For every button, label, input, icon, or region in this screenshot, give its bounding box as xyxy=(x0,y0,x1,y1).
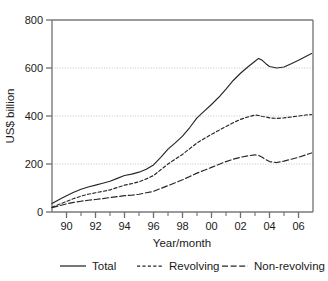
series-line-revolving xyxy=(52,115,312,208)
x-tick-label-00: 00 xyxy=(205,220,217,232)
x-axis-tick-labels: 90 92 94 96 98 00 02 04 06 xyxy=(60,220,304,232)
y-axis-ticks xyxy=(46,20,52,212)
chart-legend: Total Revolving Non-revolving xyxy=(60,260,325,272)
legend-item-total[interactable]: Total xyxy=(60,260,116,272)
y-axis-tick-labels: 800 600 400 200 0 xyxy=(25,14,43,218)
legend-label-revolving: Revolving xyxy=(169,260,220,272)
x-tick-label-04: 04 xyxy=(263,220,275,232)
y-tick-label-0: 0 xyxy=(37,206,43,218)
x-tick-label-02: 02 xyxy=(234,220,246,232)
legend-label-total: Total xyxy=(92,260,116,272)
y-tick-label-200: 200 xyxy=(25,158,43,170)
series-line-non-revolving xyxy=(52,153,312,208)
consumer-credit-line-chart: 800 600 400 200 0 90 92 94 96 98 00 02 xyxy=(0,0,328,281)
x-axis-major-ticks xyxy=(67,212,299,218)
y-tick-label-600: 600 xyxy=(25,62,43,74)
legend-item-revolving[interactable]: Revolving xyxy=(137,260,220,272)
legend-label-non-revolving: Non-revolving xyxy=(254,260,325,272)
y-axis-title: US$ billion xyxy=(4,89,16,144)
x-tick-label-98: 98 xyxy=(176,220,188,232)
series-line-total xyxy=(52,54,312,204)
x-tick-label-96: 96 xyxy=(147,220,159,232)
x-axis-title: Year/month xyxy=(153,237,211,249)
data-series-group xyxy=(52,54,312,208)
x-tick-label-94: 94 xyxy=(118,220,130,232)
x-tick-label-06: 06 xyxy=(292,220,304,232)
x-tick-label-90: 90 xyxy=(60,220,72,232)
gridlines xyxy=(52,68,313,164)
legend-item-non-revolving[interactable]: Non-revolving xyxy=(222,260,325,272)
y-tick-label-400: 400 xyxy=(25,110,43,122)
y-tick-label-800: 800 xyxy=(25,14,43,26)
x-tick-label-92: 92 xyxy=(89,220,101,232)
